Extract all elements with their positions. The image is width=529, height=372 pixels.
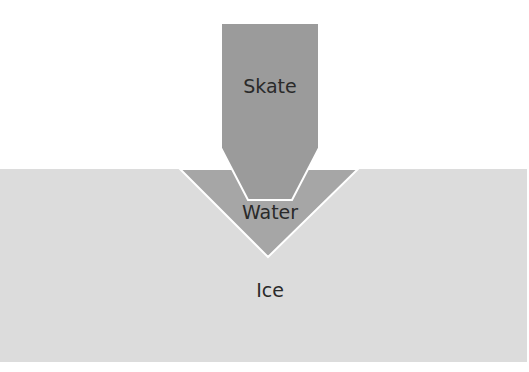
ice-label: Ice: [256, 279, 284, 301]
diagram-canvas: [0, 0, 529, 372]
skate-blade: [221, 23, 319, 200]
water-label: Water: [242, 201, 298, 223]
skate-label: Skate: [243, 75, 297, 97]
